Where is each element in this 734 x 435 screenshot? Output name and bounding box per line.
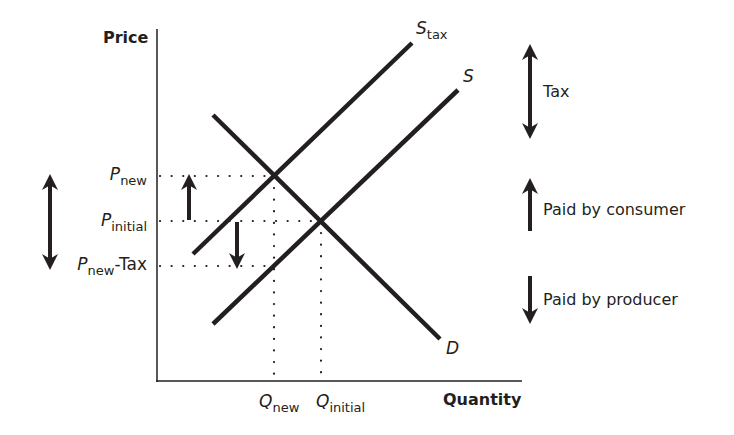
price-tick-main: P	[77, 254, 87, 274]
quantity-tick-q-initial: Qinitial	[316, 393, 365, 410]
supply-label: S	[463, 68, 474, 85]
price-tick-main: P	[101, 210, 111, 230]
supply-tax-label: Stax	[416, 20, 448, 37]
price-tick-sub: initial	[111, 219, 147, 234]
price-tick-sub: new	[88, 263, 115, 278]
price-tick-p-new-tax: Pnew-Tax	[77, 256, 147, 273]
quantity-tick-sub: initial	[329, 400, 365, 415]
price-tick-p-initial: Pinitial	[101, 212, 147, 229]
supply-curve	[213, 90, 458, 324]
supply-tax-label-sub: tax	[427, 27, 448, 42]
quantity-tick-q-new: Qnew	[259, 393, 299, 410]
supply-tax-curve	[193, 43, 412, 254]
quantity-tick-main: Q	[259, 391, 272, 411]
x-axis-label: Quantity	[443, 392, 521, 408]
quantity-tick-main: Q	[316, 391, 329, 411]
supply-tax-label-main: S	[416, 18, 427, 38]
price-tick-main: P	[110, 164, 120, 184]
legend-tax-label: Tax	[543, 84, 569, 100]
quantity-tick-sub: new	[272, 400, 299, 415]
y-axis-label: Price	[103, 30, 148, 46]
demand-label: D	[446, 340, 459, 357]
price-tick-p-new: Pnew	[110, 166, 147, 183]
legend-producer-label: Paid by producer	[543, 292, 678, 308]
legend-consumer-label: Paid by consumer	[543, 202, 685, 218]
price-tick-suffix: -Tax	[114, 254, 147, 274]
demand-curve	[213, 115, 440, 339]
price-tick-sub: new	[120, 173, 147, 188]
